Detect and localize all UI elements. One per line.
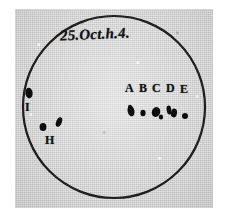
sunspot-d2	[170, 108, 177, 118]
spot-label-b: B	[139, 82, 147, 94]
sunspot-c2	[159, 114, 163, 119]
spot-label-i: I	[25, 101, 30, 113]
sunspot-e	[182, 113, 188, 119]
sunspot-a2	[128, 105, 132, 109]
disk-outline	[23, 16, 205, 198]
sunspot-figure-root: 25.Oct.h.4. A B C D E I H	[0, 0, 230, 222]
sunspot-h1	[40, 123, 47, 131]
spot-label-e: E	[180, 83, 188, 95]
sunspot-h2	[55, 116, 64, 127]
date-inscription: 25.Oct.h.4.	[60, 25, 130, 43]
spot-label-h: H	[45, 134, 54, 146]
sunspot-b	[140, 110, 145, 116]
spot-label-a: A	[125, 82, 134, 94]
sunspot-i	[25, 87, 33, 98]
spot-group-east	[127, 105, 188, 120]
spot-label-d: D	[166, 82, 175, 94]
spot-group-west	[25, 87, 64, 131]
spot-label-c: C	[152, 82, 161, 94]
